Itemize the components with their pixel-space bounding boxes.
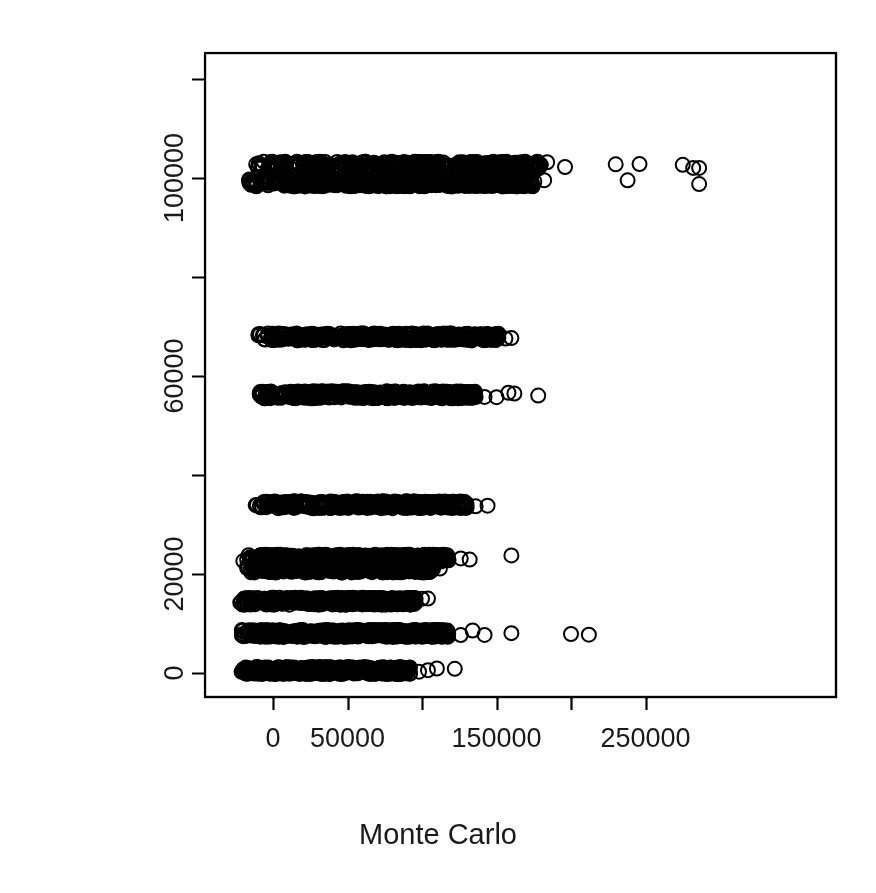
x-axis-title: Monte Carlo: [0, 818, 876, 851]
plot-canvas: [0, 0, 876, 893]
scatter-plot-figure: Monte Carlo Tree model: [0, 0, 876, 893]
